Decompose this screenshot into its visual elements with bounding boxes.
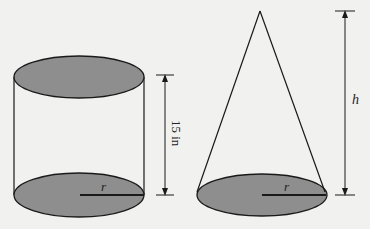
cone-height-dimension: h [335,11,359,195]
cylinder: r [14,56,144,217]
cylinder-height-dimension: 15 in [156,75,184,195]
cone-height-label: h [352,92,359,107]
cone-right-side [260,11,325,192]
cylinder-top-base [14,56,144,98]
cylinder-height-label: 15 in [169,120,184,147]
geometry-figure: r 15 in r h [0,0,370,229]
cone: r [197,11,327,216]
cone-left-side [197,11,260,192]
